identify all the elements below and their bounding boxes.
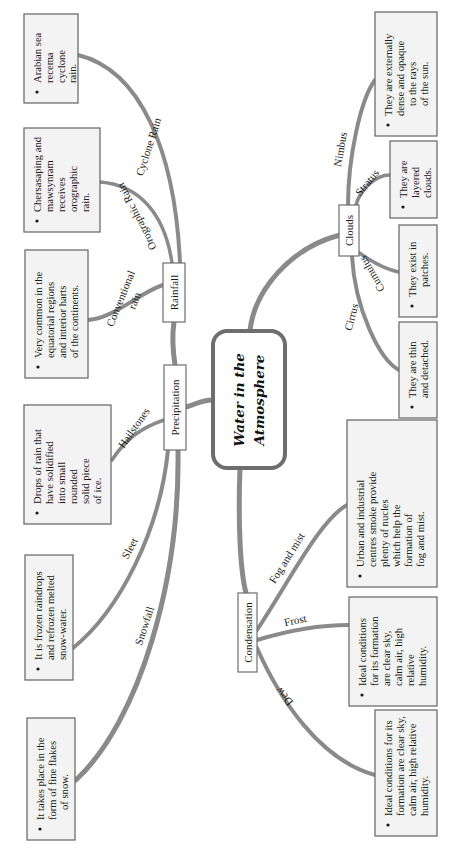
bullet-icon [386, 823, 389, 826]
svg-text:layered: layered [410, 166, 421, 198]
bullet-icon [38, 827, 41, 830]
bullet-icon [36, 667, 39, 670]
label-cirrus: Cirrus [342, 302, 361, 332]
branch-frost [257, 625, 349, 640]
box-cumulus: They exist in patches. [399, 225, 437, 317]
svg-text:Chersasaping and: Chersasaping and [32, 136, 43, 212]
svg-text:formation are clear sky,: formation are clear sky, [395, 716, 406, 816]
svg-text:relative: relative [405, 654, 416, 686]
svg-text:into small: into small [56, 462, 67, 504]
svg-text:patches.: patches. [419, 253, 430, 287]
box-hailstones: Drops of rain that have solidified into … [24, 405, 111, 524]
svg-text:fog and mist.: fog and mist. [415, 511, 426, 567]
label-nimbus: Nimbus [331, 131, 349, 167]
svg-text:and refrozen melted: and refrozen melted [45, 575, 56, 660]
bullet-icon [35, 90, 38, 93]
svg-text:equatorial regions: equatorial regions [45, 282, 56, 358]
bullet-icon [36, 365, 39, 368]
svg-text:mawsynram: mawsynram [44, 159, 55, 212]
svg-text:recema: recema [44, 52, 55, 83]
branch-precipitation-rainfall [173, 322, 175, 365]
svg-text:humidity.: humidity. [417, 646, 428, 686]
svg-text:They exist in: They exist in [407, 241, 418, 297]
box-snowfall: It takes place in the form of fine flake… [27, 718, 75, 840]
svg-text:of snow.: of snow. [59, 774, 70, 810]
svg-text:have solidified: have solidified [44, 441, 55, 504]
svg-text:rain.: rain. [80, 193, 91, 212]
svg-text:and detached.: and detached. [419, 340, 430, 398]
box-orographic-rain: Chersasaping and mawsynram receives orog… [24, 128, 100, 232]
bullet-icon [35, 219, 38, 222]
svg-text:Urban and industrial: Urban and industrial [355, 480, 366, 567]
bullet-icon [358, 574, 361, 577]
svg-text:of the continents.: of the continents. [69, 285, 80, 358]
node-precipitation-label: Precipitation [169, 379, 181, 436]
node-clouds-label: Clouds [343, 215, 355, 246]
branch-central-clouds [250, 235, 340, 330]
svg-text:dense and opaque: dense and opaque [395, 40, 406, 116]
svg-text:solid piece: solid piece [80, 458, 91, 504]
bullet-icon [410, 304, 413, 307]
box-frost: Ideal conditions for its formation are c… [349, 597, 437, 706]
central-title-line2: Atmosphere [251, 354, 267, 447]
svg-text:Arabian sea: Arabian sea [32, 32, 43, 83]
svg-text:receives: receives [56, 177, 67, 212]
svg-text:Very common in the: Very common in the [33, 271, 44, 358]
svg-text:They are externally: They are externally [383, 33, 394, 116]
mind-map-canvas: Water in the Atmosphere Rainfall Precipi… [0, 0, 455, 867]
node-condensation[interactable]: Condensation [238, 593, 257, 672]
box-sleet: It is frozen raindrops and refrozen melt… [25, 555, 73, 680]
svg-text:rounded: rounded [68, 469, 79, 504]
svg-text:It takes place in the: It takes place in the [35, 737, 46, 820]
bullet-icon [410, 405, 413, 408]
svg-text:clouds.: clouds. [422, 168, 433, 198]
node-precipitation[interactable]: Precipitation [164, 365, 186, 450]
label-frost: Frost [283, 612, 308, 628]
svg-text:plenty of nucles: plenty of nucles [379, 499, 390, 567]
box-cirrus: They are thin and detached. [399, 322, 437, 418]
svg-text:Drops of rain that: Drops of rain that [32, 429, 43, 504]
box-nimbus: They are externally dense and opaque to … [375, 12, 437, 136]
svg-text:snow-water.: snow-water. [57, 609, 68, 660]
label-orographic-rain: Orographic Rain [114, 181, 158, 252]
branch-fog-and-mist [257, 505, 347, 630]
branch-central-precipitation [186, 400, 213, 407]
svg-text:They are thin: They are thin [407, 341, 418, 398]
svg-text:They are: They are [398, 160, 409, 198]
box-stratus: They are layered clouds. [390, 141, 437, 218]
bullet-icon [35, 511, 38, 514]
svg-text:formation of: formation of [403, 513, 414, 567]
svg-text:calm air, high: calm air, high [393, 627, 404, 686]
box-dew: Ideal conditions for its formation are c… [375, 710, 437, 836]
box-cyclone-rain: Arabian sea recema cyclone rain. [24, 14, 78, 103]
bullet-icon [386, 123, 389, 126]
bullet-icon [360, 693, 363, 696]
svg-text:and interior harts: and interior harts [57, 286, 68, 358]
svg-text:Ideal conditions: Ideal conditions [357, 618, 368, 686]
svg-text:for its formation: for its formation [369, 616, 380, 686]
branch-central-condensation [239, 468, 246, 593]
svg-text:Ideal conditions for its: Ideal conditions for its [383, 720, 394, 816]
central-title-line1: Water in the [231, 353, 247, 447]
svg-text:rain.: rain. [67, 64, 78, 83]
box-conventional-rain: Very common in the equatorial regions an… [25, 250, 88, 378]
svg-text:of the sun.: of the sun. [419, 62, 430, 106]
svg-text:humidity.: humidity. [419, 776, 430, 816]
central-node[interactable]: Water in the Atmosphere [213, 331, 285, 468]
svg-text:are clear sky,: are clear sky, [381, 631, 392, 686]
node-rainfall[interactable]: Rainfall [163, 263, 185, 322]
node-condensation-label: Condensation [242, 602, 254, 663]
svg-text:orographic: orographic [68, 166, 79, 212]
svg-text:to the rays: to the rays [407, 62, 418, 106]
svg-text:It is frozen raindrops: It is frozen raindrops [33, 571, 44, 660]
svg-text:calm air, high relative: calm air, high relative [407, 723, 418, 816]
node-clouds[interactable]: Clouds [339, 205, 359, 256]
svg-text:which help the: which help the [391, 504, 402, 567]
svg-text:of ice.: of ice. [92, 478, 103, 504]
svg-text:cyclone: cyclone [56, 50, 67, 83]
bullet-icon [401, 205, 404, 208]
svg-text:form of fine flakes: form of fine flakes [47, 741, 58, 820]
box-fog-and-mist: Urban and industrial centres smoke provi… [347, 420, 437, 587]
node-rainfall-label: Rainfall [168, 275, 180, 310]
label-stratus: Stratus [353, 167, 382, 198]
